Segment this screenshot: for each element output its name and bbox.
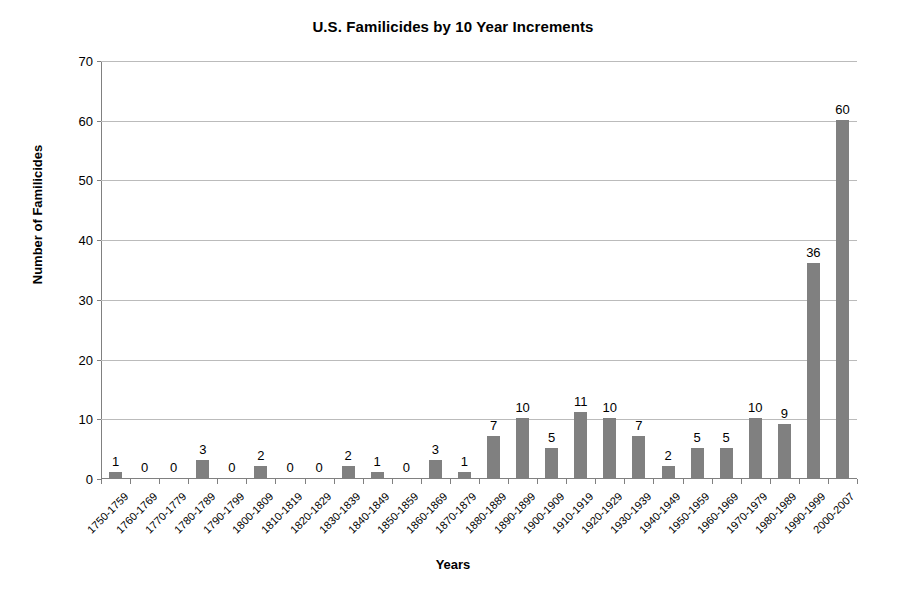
- x-tick-mark: [305, 479, 306, 484]
- bar-value-label: 2: [257, 448, 264, 463]
- bar: [691, 448, 704, 478]
- gridline: [101, 180, 857, 181]
- bar: [807, 263, 820, 478]
- y-tick-mark: [97, 61, 101, 62]
- chart-title: U.S. Familicides by 10 Year Increments: [0, 18, 906, 35]
- x-tick-mark: [188, 479, 189, 484]
- y-tick-mark: [97, 419, 101, 420]
- bar-value-label: 0: [403, 460, 410, 475]
- bar: [342, 466, 355, 478]
- x-tick-mark: [217, 479, 218, 484]
- y-tick-label: 50: [79, 173, 93, 188]
- x-tick-mark: [683, 479, 684, 484]
- bar: [603, 418, 616, 478]
- x-tick-mark: [479, 479, 480, 484]
- bar-value-label: 1: [112, 454, 119, 469]
- bar-value-label: 7: [490, 418, 497, 433]
- x-tick-mark: [508, 479, 509, 484]
- bar-value-label: 60: [835, 102, 849, 117]
- bar: [545, 448, 558, 478]
- y-tick-label: 20: [79, 352, 93, 367]
- y-tick-mark: [97, 300, 101, 301]
- x-tick-mark: [421, 479, 422, 484]
- bar: [574, 412, 587, 478]
- x-tick-mark: [566, 479, 567, 484]
- gridline: [101, 121, 857, 122]
- x-tick-mark: [712, 479, 713, 484]
- y-tick-label: 40: [79, 233, 93, 248]
- bar: [196, 460, 209, 478]
- bar-value-label: 10: [515, 400, 529, 415]
- bar-value-label: 0: [315, 460, 322, 475]
- bar: [662, 466, 675, 478]
- y-axis-title: Number of Familicides: [30, 115, 45, 315]
- y-tick-label: 70: [79, 54, 93, 69]
- x-tick-mark: [653, 479, 654, 484]
- bar-value-label: 9: [781, 406, 788, 421]
- gridline: [101, 360, 857, 361]
- x-tick-mark: [799, 479, 800, 484]
- bar-value-label: 2: [664, 448, 671, 463]
- x-tick-mark: [363, 479, 364, 484]
- y-tick-label: 10: [79, 412, 93, 427]
- bar-value-label: 5: [693, 430, 700, 445]
- y-tick-mark: [97, 180, 101, 181]
- x-tick-mark: [828, 479, 829, 484]
- x-tick-mark: [246, 479, 247, 484]
- x-tick-mark: [159, 479, 160, 484]
- bar-value-label: 1: [461, 454, 468, 469]
- bar-value-label: 0: [170, 460, 177, 475]
- bar: [371, 472, 384, 478]
- x-tick-mark: [275, 479, 276, 484]
- x-tick-mark: [857, 479, 858, 484]
- bar-value-label: 1: [374, 454, 381, 469]
- bar-value-label: 3: [199, 442, 206, 457]
- x-tick-mark: [334, 479, 335, 484]
- bar-value-label: 10: [748, 400, 762, 415]
- bar: [632, 436, 645, 478]
- familicides-bar-chart: U.S. Familicides by 10 Year Increments N…: [0, 0, 906, 596]
- y-tick-mark: [97, 360, 101, 361]
- bar-value-label: 7: [635, 418, 642, 433]
- x-tick-mark: [741, 479, 742, 484]
- bar-value-label: 36: [806, 245, 820, 260]
- x-tick-mark: [770, 479, 771, 484]
- bar-value-label: 3: [432, 442, 439, 457]
- bar-value-label: 0: [286, 460, 293, 475]
- bar-value-label: 10: [603, 400, 617, 415]
- x-tick-mark: [537, 479, 538, 484]
- gridline: [101, 61, 857, 62]
- gridline: [101, 419, 857, 420]
- bar: [720, 448, 733, 478]
- y-tick-label: 60: [79, 113, 93, 128]
- x-axis-title: Years: [0, 557, 906, 572]
- plot-area: 010203040506070 100302002103171051110725…: [101, 61, 857, 479]
- y-axis-line: [101, 61, 102, 479]
- bar: [458, 472, 471, 478]
- bar-value-label: 0: [228, 460, 235, 475]
- bar: [836, 120, 849, 478]
- bar-value-label: 2: [345, 448, 352, 463]
- bar: [487, 436, 500, 478]
- x-tick-mark: [130, 479, 131, 484]
- bar: [749, 418, 762, 478]
- x-tick-mark: [450, 479, 451, 484]
- bar: [778, 424, 791, 478]
- bar-value-label: 0: [141, 460, 148, 475]
- x-tick-mark: [595, 479, 596, 484]
- x-tick-mark: [101, 479, 102, 484]
- y-tick-mark: [97, 121, 101, 122]
- y-tick-label: 0: [86, 472, 93, 487]
- gridline: [101, 240, 857, 241]
- bar: [254, 466, 267, 478]
- bar-value-label: 5: [723, 430, 730, 445]
- bar: [109, 472, 122, 478]
- x-tick-mark: [392, 479, 393, 484]
- bar-value-label: 5: [548, 430, 555, 445]
- bar: [429, 460, 442, 478]
- y-tick-label: 30: [79, 292, 93, 307]
- gridline: [101, 300, 857, 301]
- x-tick-mark: [624, 479, 625, 484]
- bar: [516, 418, 529, 478]
- y-tick-mark: [97, 240, 101, 241]
